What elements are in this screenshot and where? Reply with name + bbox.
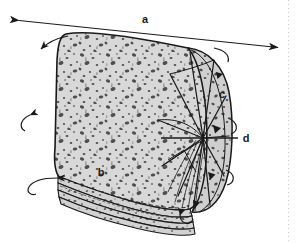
label-b: b: [98, 166, 105, 178]
figure-root: a b c d: [0, 0, 298, 243]
core-block-diagram: a b c d: [0, 0, 298, 243]
label-c: c: [219, 88, 225, 100]
curved-arrow-top-right: [214, 48, 228, 62]
label-a: a: [142, 13, 149, 25]
curved-arrow-bottom-left: [28, 178, 57, 195]
label-d: d: [243, 132, 250, 144]
curved-arrow-mid-left: [21, 115, 30, 131]
